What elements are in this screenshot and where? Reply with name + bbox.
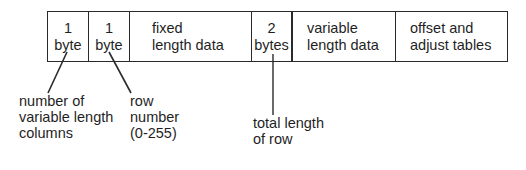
annotation-line: row <box>130 93 179 109</box>
annotation-line: number of <box>19 93 113 109</box>
annotation-variable-column-count: number of variable length columns <box>19 93 113 141</box>
connector-variable-column-count <box>48 52 67 93</box>
annotation-line: variable length <box>19 109 113 125</box>
connector-row-number <box>109 52 131 93</box>
annotation-line: (0-255) <box>130 125 179 141</box>
annotation-total-length: total length of row <box>253 115 324 147</box>
annotation-row-number: row number (0-255) <box>130 93 179 141</box>
annotation-line: columns <box>19 125 113 141</box>
annotation-line: total length <box>253 115 324 131</box>
annotation-line: number <box>130 109 179 125</box>
annotation-line: of row <box>253 131 324 147</box>
